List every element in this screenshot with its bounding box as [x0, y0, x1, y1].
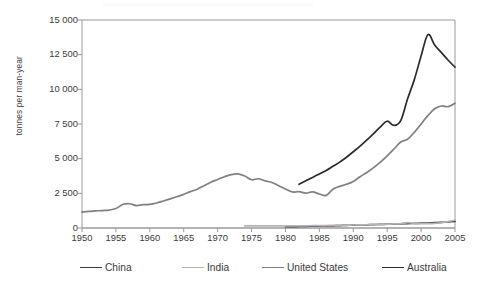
- legend-item-india[interactable]: India: [182, 258, 229, 276]
- legend-swatch-icon: [182, 267, 204, 268]
- legend-swatch-icon: [262, 267, 284, 268]
- legend-item-china[interactable]: China: [80, 258, 132, 276]
- legend-label: United States: [287, 262, 348, 273]
- legend-label: India: [207, 262, 229, 273]
- legend-item-australia[interactable]: Australia: [382, 258, 447, 276]
- legend-item-united-states[interactable]: United States: [262, 258, 348, 276]
- legend-label: Australia: [407, 262, 447, 273]
- series-line-india: [245, 220, 455, 226]
- chart-figure: tonnes per man-year 02 5005 0007 50010 0…: [0, 0, 477, 292]
- series-line-australia: [299, 34, 455, 184]
- series-line-united-states: [82, 103, 455, 212]
- legend-swatch-icon: [80, 267, 102, 268]
- legend-label: China: [105, 262, 132, 273]
- plot-area: [0, 0, 477, 292]
- legend-swatch-icon: [382, 267, 404, 268]
- chart-legend: ChinaIndiaUnited StatesAustralia: [0, 258, 477, 280]
